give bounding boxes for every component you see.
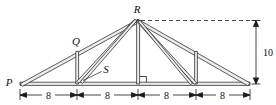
truss-diagram: 10 8 8 8 8 P Q R S	[0, 0, 276, 105]
bottom-chord	[20, 82, 250, 85]
dim-arrow-right-4-icon	[244, 93, 251, 98]
vertex-label-p: P	[5, 76, 13, 88]
left-strut-q	[76, 51, 79, 84]
dimension-label-3: 8	[164, 90, 169, 101]
vertical-dimension-group	[252, 21, 261, 85]
truss-structure	[20, 19, 250, 86]
left-top-chord	[20, 19, 139, 86]
dimension-label-1: 8	[46, 90, 51, 101]
web-r-to-right-inner	[138, 20, 193, 84]
dim-arrow-left-4-icon	[196, 93, 203, 98]
right-top-chord	[137, 19, 250, 85]
vertex-label-q: Q	[72, 35, 80, 47]
right-strut	[195, 51, 198, 84]
vertical-arrow-top-icon	[253, 21, 258, 27]
vertical-dimension-label: 10	[263, 47, 273, 58]
dim-arrow-left-3-icon	[138, 93, 145, 98]
dim-arrow-left-2-icon	[77, 93, 84, 98]
vertex-label-r: R	[133, 3, 141, 15]
dimension-label-4: 8	[220, 90, 225, 101]
king-post	[137, 21, 140, 85]
vertical-arrow-bottom-icon	[253, 78, 258, 84]
right-angle-icon	[140, 77, 147, 83]
dimension-label-2: 8	[105, 90, 110, 101]
vertex-label-s: S	[103, 63, 109, 75]
dim-arrow-left-1-icon	[20, 93, 27, 98]
